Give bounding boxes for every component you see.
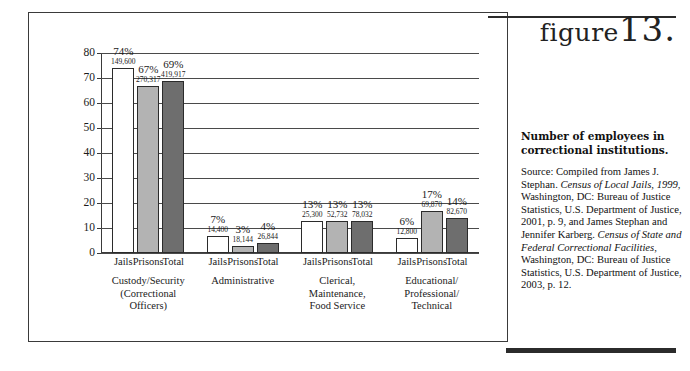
figure-header: figure13. bbox=[486, 14, 676, 48]
x-tick-label-total: Total bbox=[257, 256, 278, 268]
group-label: Educational/ Professional/ Technical bbox=[374, 275, 491, 313]
bar-jails[interactable] bbox=[396, 238, 418, 253]
bar-percent-label: 4% bbox=[260, 221, 275, 232]
y-tick-label: 20 bbox=[84, 197, 96, 209]
x-tick-label-jails: Jails bbox=[114, 256, 133, 268]
plot-wrapper: 149,60074%270,31767%419,91769%14,4007%18… bbox=[29, 13, 509, 343]
y-tick-label: 30 bbox=[84, 172, 96, 184]
bar-count-label: 52,732 bbox=[327, 211, 348, 219]
bar-jails[interactable] bbox=[301, 221, 323, 254]
bar-group: 149,60074%270,31767%419,91769% bbox=[101, 53, 196, 253]
y-tick-mark bbox=[97, 203, 101, 204]
bar-percent-label: 17% bbox=[422, 189, 442, 200]
bar-percent-label: 67% bbox=[138, 64, 158, 75]
y-tick-label: 40 bbox=[84, 147, 96, 159]
bar-count-label: 14,400 bbox=[207, 226, 228, 234]
bar-count-label: 69,870 bbox=[421, 201, 442, 209]
figure-source-note: Source: Compiled from James J. Stephan. … bbox=[521, 166, 683, 292]
y-tick-mark bbox=[97, 253, 101, 254]
y-tick-label: 50 bbox=[84, 122, 96, 134]
bar-count-label: 149,600 bbox=[111, 58, 135, 66]
bar-total[interactable] bbox=[162, 81, 184, 254]
bar-percent-label: 13% bbox=[352, 199, 372, 210]
footer-rule bbox=[506, 348, 676, 353]
bar-prisons[interactable] bbox=[421, 211, 443, 254]
y-tick-label: 60 bbox=[84, 97, 96, 109]
bar-count-label: 419,917 bbox=[161, 71, 185, 79]
y-tick-mark bbox=[97, 178, 101, 179]
bar-percent-label: 6% bbox=[399, 216, 414, 227]
bar-count-label: 26,844 bbox=[257, 233, 278, 241]
x-tick-label-prisons: Prisons bbox=[322, 256, 353, 268]
figure-number: 13. bbox=[619, 9, 676, 49]
chart-panel: 149,60074%270,31767%419,91769%14,4007%18… bbox=[28, 12, 508, 342]
bar-prisons[interactable] bbox=[326, 221, 348, 254]
gridline bbox=[101, 253, 479, 254]
bar-percent-label: 7% bbox=[210, 214, 225, 225]
x-tick-label-jails: Jails bbox=[397, 256, 416, 268]
bar-count-label: 270,317 bbox=[136, 76, 160, 84]
y-tick-mark bbox=[97, 78, 101, 79]
bar-total[interactable] bbox=[446, 218, 468, 253]
y-tick-label: 70 bbox=[84, 72, 96, 84]
x-tick-label-prisons: Prisons bbox=[227, 256, 258, 268]
x-axis-group-labels: Custody/Security (Correctional Officers)… bbox=[101, 275, 479, 335]
figure-word: figure bbox=[540, 18, 619, 47]
x-tick-label-jails: Jails bbox=[303, 256, 322, 268]
bar-count-label: 25,300 bbox=[302, 211, 323, 219]
y-tick-mark bbox=[97, 228, 101, 229]
y-tick-mark bbox=[97, 153, 101, 154]
y-tick-mark bbox=[97, 53, 101, 54]
x-axis-series-labels: JailsPrisonsTotalJailsPrisonsTotalJailsP… bbox=[101, 256, 479, 272]
x-tick-label-total: Total bbox=[163, 256, 184, 268]
bar-prisons[interactable] bbox=[137, 86, 159, 254]
bar-jails[interactable] bbox=[207, 236, 229, 254]
y-tick-label: 80 bbox=[84, 47, 96, 59]
x-tick-label-total: Total bbox=[446, 256, 467, 268]
bar-group: 25,30013%52,73213%78,03213% bbox=[290, 53, 385, 253]
y-tick-label: 0 bbox=[89, 247, 95, 259]
bar-percent-label: 13% bbox=[327, 199, 347, 210]
bar-total[interactable] bbox=[257, 243, 279, 253]
y-tick-mark bbox=[97, 128, 101, 129]
x-tick-label-prisons: Prisons bbox=[133, 256, 164, 268]
bar-groups: 149,60074%270,31767%419,91769%14,4007%18… bbox=[101, 53, 479, 253]
bar-group: 14,4007%18,1443%26,8444% bbox=[196, 53, 291, 253]
bar-prisons[interactable] bbox=[232, 246, 254, 254]
figure-page: 149,60074%270,31767%419,91769%14,4007%18… bbox=[0, 0, 690, 371]
bar-percent-label: 69% bbox=[163, 59, 183, 70]
y-tick-mark bbox=[97, 103, 101, 104]
bar-percent-label: 3% bbox=[235, 224, 250, 235]
bar-group: 12,8006%69,87017%82,67014% bbox=[385, 53, 480, 253]
bar-count-label: 12,800 bbox=[396, 228, 417, 236]
bar-jails[interactable] bbox=[112, 68, 134, 253]
bar-count-label: 78,032 bbox=[352, 211, 373, 219]
x-tick-label-total: Total bbox=[352, 256, 373, 268]
figure-caption-title: Number of employees in correctional inst… bbox=[521, 130, 679, 157]
y-tick-label: 10 bbox=[84, 222, 96, 234]
bar-percent-label: 74% bbox=[113, 46, 133, 57]
source-italic-1: Census of Local Jails, 1999 bbox=[560, 179, 677, 190]
plot-area: 149,60074%270,31767%419,91769%14,4007%18… bbox=[101, 53, 479, 253]
x-tick-label-jails: Jails bbox=[208, 256, 227, 268]
bar-percent-label: 14% bbox=[447, 196, 467, 207]
bar-count-label: 82,670 bbox=[446, 208, 467, 216]
x-tick-label-prisons: Prisons bbox=[416, 256, 447, 268]
bar-total[interactable] bbox=[351, 221, 373, 254]
bar-percent-label: 13% bbox=[302, 199, 322, 210]
bar-count-label: 18,144 bbox=[232, 236, 253, 244]
